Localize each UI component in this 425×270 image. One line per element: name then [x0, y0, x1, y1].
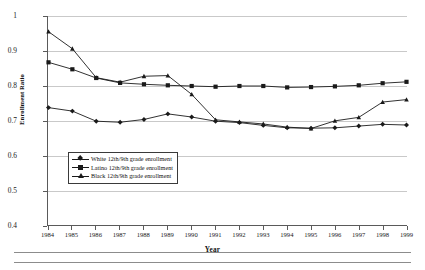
y-tick-mark: [43, 156, 47, 157]
y-tick-mark: [43, 191, 47, 192]
legend-marker-triangle-icon: [72, 172, 89, 180]
data-point: [46, 105, 51, 110]
series-layer: [48, 16, 407, 225]
data-point: [237, 84, 241, 88]
y-tick-mark: [43, 16, 47, 17]
legend-marker-square-icon: [72, 164, 89, 172]
data-point: [118, 120, 123, 125]
data-point: [141, 117, 146, 122]
data-point: [285, 85, 289, 89]
data-point: [357, 83, 361, 87]
data-point: [356, 115, 361, 119]
x-tick-mark: [167, 226, 168, 230]
y-tick-label: 0.8: [0, 82, 17, 89]
x-tick-mark: [143, 226, 144, 230]
data-point: [381, 81, 385, 85]
x-tick-mark: [239, 226, 240, 230]
data-point: [190, 84, 194, 88]
series-line: [48, 62, 406, 87]
data-point: [165, 111, 170, 116]
data-point: [70, 67, 74, 71]
x-tick-mark: [311, 226, 312, 230]
x-tick-mark: [95, 226, 96, 230]
data-point: [213, 85, 217, 89]
data-point: [261, 84, 265, 88]
data-point: [46, 29, 51, 33]
footer-rule-bottom: [14, 262, 411, 263]
legend-item: Latino 12th/9th grade enrollment: [72, 164, 173, 173]
data-point: [332, 125, 337, 130]
y-tick-mark: [43, 121, 47, 122]
x-tick-mark: [287, 226, 288, 230]
data-point: [189, 115, 194, 120]
data-point: [356, 124, 361, 129]
series-triangle: [46, 29, 409, 130]
data-point: [166, 83, 170, 87]
y-tick-label: 0.9: [0, 47, 17, 54]
x-tick-mark: [191, 226, 192, 230]
series-line: [48, 32, 406, 129]
y-tick-label: 0.5: [0, 187, 17, 194]
x-tick-mark: [335, 226, 336, 230]
series-square: [46, 60, 408, 89]
y-tick-label: 0.6: [0, 152, 17, 159]
plot-area: [47, 16, 407, 226]
x-tick-mark: [215, 226, 216, 230]
y-tick-mark: [43, 86, 47, 87]
data-point: [46, 60, 50, 64]
legend-label: Black 12th/9th grade enrollment: [91, 173, 171, 179]
x-tick-mark: [71, 226, 72, 230]
x-tick-mark: [407, 226, 408, 230]
legend-label: White 12th/9th grade enrollment: [91, 156, 172, 162]
y-tick-mark: [43, 51, 47, 52]
data-point: [70, 46, 75, 50]
footer-rule-top: [14, 252, 411, 253]
data-point: [70, 109, 75, 114]
data-point: [404, 123, 409, 128]
chart-figure: Enrollment Ratio 10.90.80.70.60.50.4 198…: [0, 0, 425, 270]
data-point: [309, 85, 313, 89]
legend-marker-diamond-icon: [72, 155, 89, 163]
x-tick-mark: [359, 226, 360, 230]
data-point: [380, 122, 385, 127]
y-tick-label: 1: [0, 12, 17, 19]
legend-item: White 12th/9th grade enrollment: [72, 155, 173, 164]
legend-item: Black 12th/9th grade enrollment: [72, 172, 173, 181]
data-point: [404, 80, 408, 84]
y-tick-label: 0.4: [0, 222, 17, 229]
x-tick-mark: [383, 226, 384, 230]
y-axis-title: Enrollment Ratio: [18, 57, 25, 143]
x-tick-label: 1999: [390, 232, 424, 239]
data-point: [333, 84, 337, 88]
chart-legend: White 12th/9th grade enrollmentLatino 12…: [68, 152, 178, 184]
y-tick-mark: [43, 226, 47, 227]
data-point: [94, 119, 99, 124]
x-tick-mark: [48, 226, 49, 230]
legend-label: Latino 12th/9th grade enrollment: [91, 165, 173, 171]
data-point: [142, 82, 146, 86]
y-tick-label: 0.7: [0, 117, 17, 124]
x-tick-mark: [263, 226, 264, 230]
x-tick-mark: [119, 226, 120, 230]
